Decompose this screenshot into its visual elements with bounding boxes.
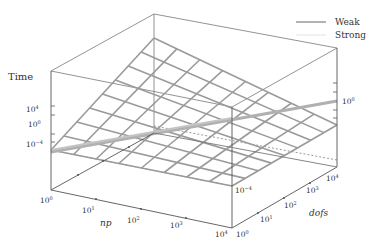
surface-plot: Time 104 100 10−4 100 10−4 100 101 102 1… [0, 0, 384, 249]
x-axis-label: np [100, 218, 112, 228]
z-axis-ticks-left [51, 106, 55, 142]
svg-text:101: 101 [260, 214, 273, 224]
svg-text:100: 100 [28, 119, 41, 129]
box-back-edges [51, 14, 337, 133]
svg-text:10−4: 10−4 [235, 185, 252, 195]
svg-text:104: 104 [26, 104, 39, 114]
y-tick-labels: 100 101 102 103 104 [236, 173, 339, 239]
legend-weak-label: Weak [335, 17, 360, 27]
svg-text:100: 100 [236, 229, 249, 239]
y-axis-label: dofs [309, 208, 329, 218]
svg-text:100: 100 [40, 195, 53, 205]
svg-text:100: 100 [342, 96, 355, 106]
legend: Weak Strong [296, 17, 366, 40]
svg-text:103: 103 [306, 185, 319, 195]
svg-text:10−4: 10−4 [26, 139, 43, 149]
surface-dashed-edges [51, 126, 337, 186]
svg-text:102: 102 [127, 215, 140, 225]
z-axis-label: Time [8, 71, 33, 82]
svg-text:103: 103 [170, 220, 183, 230]
x-tick-labels: 100 101 102 103 104 [40, 195, 228, 239]
strong-surface-grid [51, 38, 337, 186]
svg-text:101: 101 [82, 205, 95, 215]
svg-text:104: 104 [326, 173, 339, 183]
legend-strong-label: Strong [335, 30, 366, 40]
svg-text:102: 102 [284, 200, 297, 210]
svg-text:104: 104 [215, 229, 228, 239]
z-tick-labels-left: 104 100 10−4 [26, 104, 43, 149]
